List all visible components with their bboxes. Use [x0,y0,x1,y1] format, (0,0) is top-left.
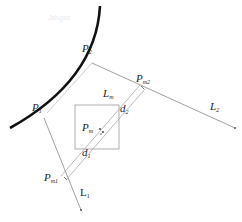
l2-end-dot [234,127,236,129]
boundary-arc [10,6,100,128]
l1-end-dot [80,209,82,211]
label-p1: P1 [31,101,42,114]
label-d2: d2 [120,102,129,115]
label-d1: d1 [82,146,91,159]
geometry-diagram: Jsbgse P2 P1 Pm2 Lm d2 Pm d1 Pm1 L1 L2 [0,0,242,222]
line-lm-a [61,85,140,176]
label-p2: P2 [81,42,92,55]
line-lm-b [66,89,145,180]
chord-p1-p2 [47,63,92,113]
label-pm1: Pm1 [43,171,58,184]
tick-pm1 [64,177,67,180]
label-pm: Pm [81,121,94,134]
label-l1: L1 [80,186,90,199]
line-l1 [44,118,81,210]
label-lm: Lm [102,87,114,100]
watermark: Jsbgse [48,14,70,22]
label-l2: L2 [209,100,219,113]
pm-dot-3 [100,133,101,134]
pm-dot-2 [102,131,104,133]
pm-dot [99,128,101,130]
label-pm2: Pm2 [135,72,150,85]
